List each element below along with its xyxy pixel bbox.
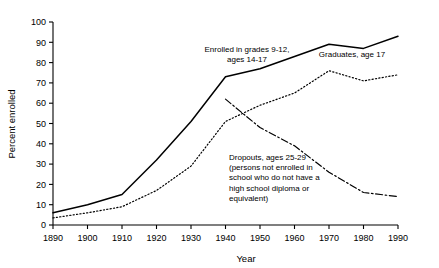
- dropouts-label: high school diploma or: [229, 184, 309, 193]
- x-tick-label: 1920: [146, 233, 166, 243]
- x-tick-label: 1960: [284, 233, 304, 243]
- enrolled-label: ages 14-17: [227, 55, 268, 64]
- y-tick-label: 70: [36, 78, 46, 88]
- line-chart: 0102030405060708090100 18901900191019201…: [0, 0, 439, 268]
- x-tick-label: 1980: [353, 233, 373, 243]
- y-tick-label: 80: [36, 58, 46, 68]
- y-tick-label: 100: [31, 17, 46, 27]
- x-tick-label: 1990: [388, 233, 408, 243]
- y-tick-label: 10: [36, 200, 46, 210]
- y-tick-label: 50: [36, 119, 46, 129]
- y-tick-label: 90: [36, 38, 46, 48]
- dropouts-label: school who do not have a: [229, 173, 320, 182]
- y-tick-label: 40: [36, 139, 46, 149]
- y-tick-label: 60: [36, 98, 46, 108]
- chart-background: [0, 0, 439, 268]
- x-tick-label: 1930: [181, 233, 201, 243]
- x-tick-label: 1890: [43, 233, 63, 243]
- x-tick-label: 1940: [215, 233, 235, 243]
- y-tick-label: 0: [41, 220, 46, 230]
- x-tick-label: 1950: [250, 233, 270, 243]
- y-tick-label: 30: [36, 159, 46, 169]
- enrolled-label: Enrolled in grades 9-12,: [205, 45, 290, 54]
- chart-container: 0102030405060708090100 18901900191019201…: [0, 0, 439, 268]
- dropouts-label: (persons not enrolled in: [229, 163, 313, 172]
- graduates-label: Graduates, age 17: [319, 50, 386, 59]
- dropouts-label: equivalent): [229, 194, 268, 203]
- y-tick-label: 20: [36, 180, 46, 190]
- x-axis-title: Year: [236, 253, 255, 264]
- x-tick-label: 1900: [77, 233, 97, 243]
- dropouts-label: Dropouts, ages 25-29: [229, 153, 306, 162]
- x-tick-label: 1910: [112, 233, 132, 243]
- y-axis-title: Percent enrolled: [6, 89, 17, 158]
- x-tick-label: 1970: [319, 233, 339, 243]
